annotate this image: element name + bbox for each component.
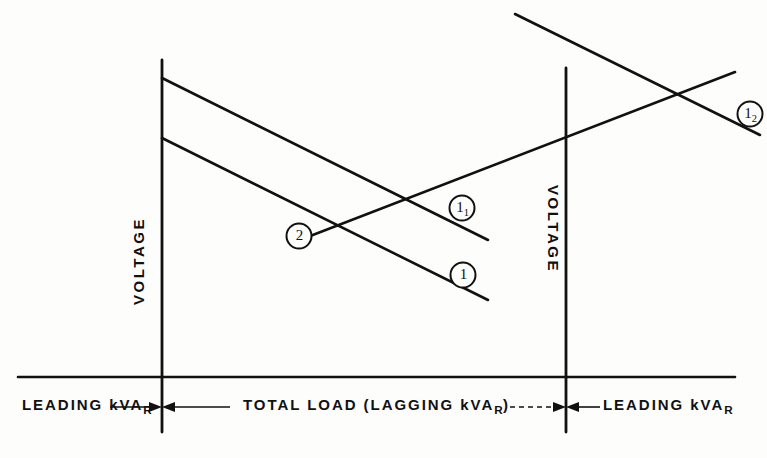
curve-1-callout-label: 1: [451, 267, 476, 282]
curve-1-1-callout-text: 1: [456, 199, 464, 215]
leading-kvar-right-label: LEADING kVAR: [603, 396, 733, 416]
curve-1-2-line: [515, 14, 760, 135]
curve-1-2-callout-sub: 2: [752, 113, 757, 124]
curve-1-2-callout-label: 12: [738, 106, 763, 125]
kvar-subscript: R: [724, 403, 733, 416]
leading-kvar-left-text: LEADING kVAR: [22, 396, 152, 413]
kvar-subscript: R: [494, 403, 503, 416]
leading-kvar-right-text: LEADING kVAR: [603, 396, 733, 413]
curve-2-callout-text: 2: [296, 227, 304, 243]
curve-1-1-line: [305, 72, 735, 238]
curve-2-line: [162, 78, 488, 240]
total-load-label: TOTAL LOAD (LAGGING kVAR): [243, 396, 510, 416]
curve-1-2-callout-text: 1: [744, 105, 752, 121]
left-voltage-axis-label: VOLTAGE: [130, 217, 147, 305]
leading-kvar-left-label: LEADING kVAR: [22, 396, 152, 416]
curve-1-line: [162, 138, 488, 300]
curve-1-callout-text: 1: [460, 266, 468, 282]
curve-2-callout-label: 2: [287, 228, 312, 243]
total-load-text: TOTAL LOAD (LAGGING kVAR): [243, 396, 510, 413]
diagram-canvas: [0, 0, 767, 458]
right-arrow-head-right: [553, 402, 566, 412]
voltage-load-diagram: VOLTAGE VOLTAGE LEADING kVAR TOTAL LOAD …: [0, 0, 767, 458]
curve-1-1-callout-label: 11: [450, 200, 475, 219]
left-arrow-head-left: [162, 402, 175, 412]
right-arrow-head-left: [566, 402, 579, 412]
curve-1-1-callout-sub: 1: [464, 207, 469, 218]
kvar-subscript: R: [143, 403, 152, 416]
right-voltage-axis-label: VOLTAGE: [545, 185, 562, 273]
